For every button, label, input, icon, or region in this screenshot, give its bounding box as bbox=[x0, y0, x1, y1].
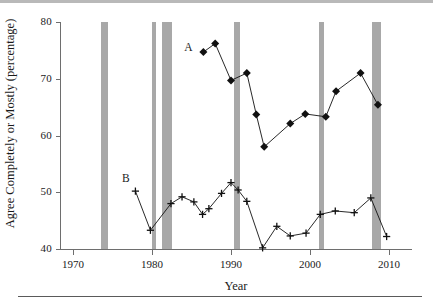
series-label-B: B bbox=[122, 173, 130, 184]
data-point-marker bbox=[190, 198, 197, 205]
data-point-marker bbox=[259, 244, 266, 251]
series-line-A bbox=[203, 44, 378, 147]
series-plot bbox=[0, 0, 433, 308]
data-point-marker bbox=[252, 111, 260, 119]
data-point-marker bbox=[167, 200, 174, 207]
series-line-B bbox=[135, 183, 386, 248]
data-point-marker bbox=[178, 193, 185, 200]
data-point-marker bbox=[374, 101, 382, 109]
figure: Agree Completely or Mostly (percentage) … bbox=[0, 0, 433, 308]
data-point-marker bbox=[383, 233, 390, 240]
data-point-marker bbox=[301, 110, 309, 118]
data-point-marker bbox=[332, 87, 340, 95]
series-label-A: A bbox=[184, 42, 192, 53]
data-point-marker bbox=[317, 211, 324, 218]
bottom-rule bbox=[18, 296, 422, 297]
data-point-marker bbox=[211, 40, 219, 48]
data-point-marker bbox=[302, 230, 309, 237]
data-point-marker bbox=[243, 198, 250, 205]
data-point-marker bbox=[287, 232, 294, 239]
data-point-marker bbox=[332, 207, 339, 214]
data-point-marker bbox=[132, 188, 139, 195]
data-point-marker bbox=[147, 227, 154, 234]
data-point-marker bbox=[243, 69, 251, 77]
data-point-marker bbox=[227, 76, 235, 84]
data-point-marker bbox=[322, 113, 330, 121]
data-point-marker bbox=[273, 223, 280, 230]
data-point-marker bbox=[357, 69, 365, 77]
data-point-marker bbox=[199, 48, 207, 56]
